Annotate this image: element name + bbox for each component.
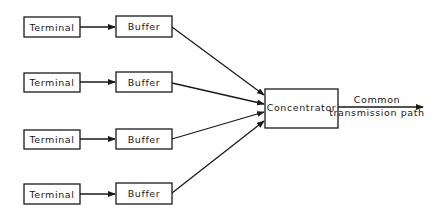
concentrator-label: Concentrator	[267, 102, 337, 113]
terminal-label-3: Terminal	[29, 134, 75, 145]
buffer-to-concentrator-arrow-2	[172, 83, 264, 104]
terminal-label-1: Terminal	[29, 22, 75, 33]
buffer-label-3: Buffer	[128, 134, 161, 145]
buffer-to-concentrator-arrow-3	[172, 112, 264, 139]
terminal-label-4: Terminal	[29, 189, 75, 200]
buffer-label-1: Buffer	[128, 21, 161, 32]
buffer-label-4: Buffer	[128, 188, 161, 199]
output-label-line1: Common	[354, 94, 400, 105]
buffer-label-2: Buffer	[128, 77, 161, 88]
multiplexing-diagram: Terminal Buffer Terminal Buffer Terminal…	[0, 0, 445, 221]
buffer-to-concentrator-arrow-4	[172, 121, 264, 193]
terminal-label-2: Terminal	[29, 77, 75, 88]
output-label-line2: transmission path	[329, 107, 425, 118]
buffer-to-concentrator-arrow-1	[172, 27, 264, 95]
